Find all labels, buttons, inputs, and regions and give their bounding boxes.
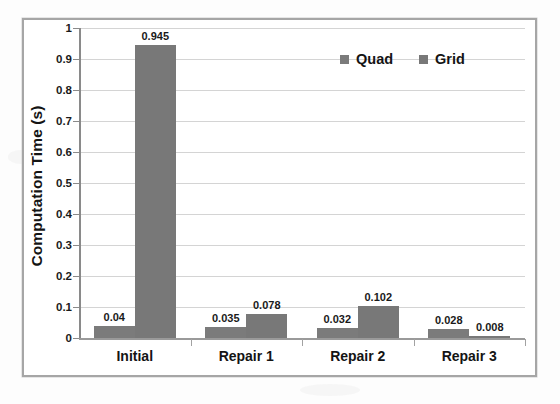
bar-quad-repair-3 <box>428 329 469 338</box>
y-axis-line <box>79 28 81 339</box>
y-axis-tick-mark <box>73 307 79 308</box>
bar-quad-initial <box>94 326 135 338</box>
y-axis-tick-label: 0.9 <box>22 53 72 65</box>
y-axis-tick-label: 0.6 <box>22 146 72 158</box>
bar-value-label: 0.102 <box>364 291 392 303</box>
gridline <box>79 28 525 29</box>
bar-grid-repair-2 <box>358 306 399 338</box>
bar-grid-initial <box>135 45 176 338</box>
chart-legend: QuadGrid <box>340 49 465 69</box>
y-axis-tick-mark <box>73 245 79 246</box>
scan-artifact <box>300 384 360 396</box>
legend-swatch-quad <box>340 55 349 64</box>
y-axis-tick-label: 0.4 <box>22 208 72 220</box>
bar-value-label: 0.035 <box>212 312 240 324</box>
bar-value-label: 0.028 <box>435 314 463 326</box>
x-axis-tick-mark <box>414 339 415 346</box>
bar-grid-repair-1 <box>246 314 287 338</box>
legend-entry-quad[interactable]: Quad <box>340 51 393 67</box>
y-axis-tick-label: 0.1 <box>22 301 72 313</box>
y-axis-tick-label: 0.8 <box>22 84 72 96</box>
bar-quad-repair-1 <box>205 327 246 338</box>
y-axis-tick-label: 0.3 <box>22 239 72 251</box>
legend-label: Grid <box>435 51 465 67</box>
bar-quad-repair-2 <box>317 328 358 338</box>
x-axis-tick-mark <box>302 339 303 346</box>
bar-value-label: 0.078 <box>253 299 281 311</box>
y-axis-tick-label: 0.7 <box>22 115 72 127</box>
legend-entry-grid[interactable]: Grid <box>419 51 465 67</box>
y-axis-tick-mark <box>73 90 79 91</box>
y-axis-tick-label: 0 <box>22 332 72 344</box>
y-axis-tick-mark <box>73 276 79 277</box>
x-axis-tick-mark <box>525 339 526 346</box>
x-axis-tick-mark <box>191 339 192 346</box>
y-axis-tick-label: 1 <box>22 22 72 34</box>
bar-value-label: 0.04 <box>104 311 125 323</box>
x-axis-category-label: Repair 2 <box>330 348 385 364</box>
x-axis-category-label: Repair 3 <box>442 348 497 364</box>
plot-area: 0.040.9450.0350.0780.0320.1020.0280.008 <box>79 28 525 338</box>
bar-chart-figure: Computation Time (s) 10.90.80.70.60.50.4… <box>0 0 560 404</box>
bar-value-label: 0.008 <box>476 321 504 333</box>
legend-swatch-grid <box>419 55 428 64</box>
y-axis-tick-mark <box>73 121 79 122</box>
y-axis-tick-mark <box>73 59 79 60</box>
y-axis-tick-mark <box>73 183 79 184</box>
y-axis-tick-label: 0.5 <box>22 177 72 189</box>
y-axis-tick-label: 0.2 <box>22 270 72 282</box>
y-axis-tick-labels: 10.90.80.70.60.50.40.30.20.10 <box>14 28 72 339</box>
bar-value-label: 0.032 <box>323 313 351 325</box>
legend-label: Quad <box>356 51 393 67</box>
y-axis-tick-mark <box>73 338 79 339</box>
x-axis-category-label: Repair 1 <box>219 348 274 364</box>
y-axis-tick-mark <box>73 28 79 29</box>
y-axis-tick-mark <box>73 214 79 215</box>
x-axis-category-label: Initial <box>116 348 153 364</box>
y-axis-tick-mark <box>73 152 79 153</box>
bar-value-label: 0.945 <box>141 30 169 42</box>
